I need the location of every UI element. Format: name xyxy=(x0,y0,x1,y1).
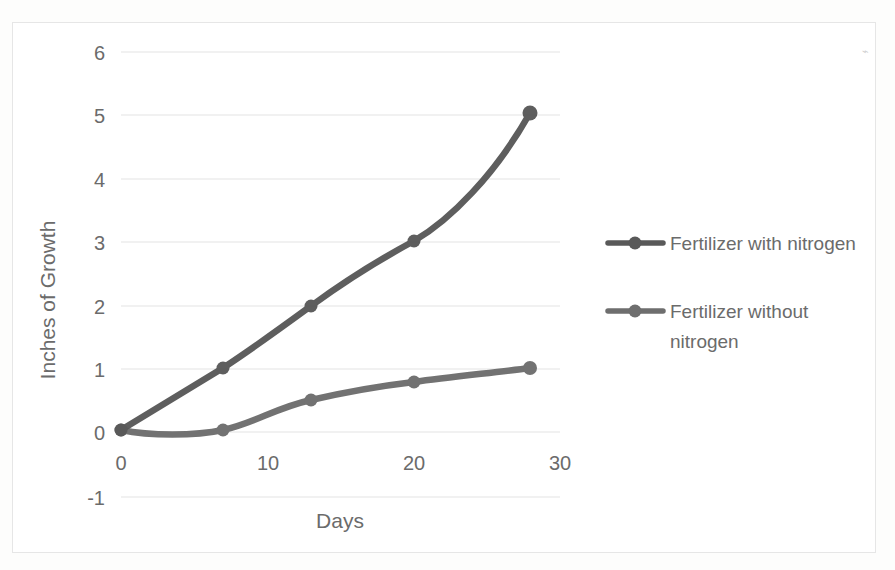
legend-label-with-nitrogen: Fertilizer with nitrogen xyxy=(670,233,856,254)
line-chart: 6 5 4 3 2 1 0 -1 0 10 20 30 Days Inches … xyxy=(0,0,895,570)
x-tick-20: 20 xyxy=(403,452,425,474)
legend-label-without-nitrogen-line1: Fertilizer without xyxy=(670,301,809,322)
legend-item-with-nitrogen[interactable]: Fertilizer with nitrogen xyxy=(608,233,856,254)
data-point-with-nitrogen-2 xyxy=(305,300,318,313)
scan-artifact: ⌁ xyxy=(862,45,869,57)
legend-swatch-marker-without-nitrogen xyxy=(629,305,642,318)
x-tick-10: 10 xyxy=(257,452,279,474)
x-tick-0: 0 xyxy=(115,452,126,474)
x-axis-title: Days xyxy=(316,509,364,532)
y-tick-neg1: -1 xyxy=(87,487,105,509)
data-point-with-nitrogen-1 xyxy=(217,362,230,375)
data-point-without-nitrogen-1 xyxy=(217,424,230,437)
y-tick-2: 2 xyxy=(94,296,105,318)
y-tick-5: 5 xyxy=(94,105,105,127)
data-point-without-nitrogen-3 xyxy=(408,376,421,389)
data-point-with-nitrogen-3 xyxy=(408,235,421,248)
series-line-with-nitrogen xyxy=(121,113,530,430)
y-tick-1: 1 xyxy=(94,359,105,381)
legend: Fertilizer with nitrogen Fertilizer with… xyxy=(608,233,856,352)
series-fertilizer-with-nitrogen xyxy=(115,106,538,437)
legend-label-without-nitrogen-line2: nitrogen xyxy=(670,331,739,352)
data-point-without-nitrogen-2 xyxy=(305,394,318,407)
y-axis-tick-labels: 6 5 4 3 2 1 0 -1 xyxy=(87,42,105,509)
y-tick-4: 4 xyxy=(94,169,105,191)
data-point-with-nitrogen-4 xyxy=(523,106,538,121)
x-axis-tick-labels: 0 10 20 30 xyxy=(115,452,571,474)
data-point-with-nitrogen-0 xyxy=(115,424,128,437)
series-line-without-nitrogen xyxy=(121,368,530,435)
y-axis-title: Inches of Growth xyxy=(36,221,59,380)
y-tick-0: 0 xyxy=(94,422,105,444)
y-tick-6: 6 xyxy=(94,42,105,64)
legend-item-without-nitrogen[interactable]: Fertilizer without nitrogen xyxy=(608,301,809,352)
x-tick-30: 30 xyxy=(549,452,571,474)
data-point-without-nitrogen-4 xyxy=(523,361,537,375)
legend-swatch-marker-with-nitrogen xyxy=(629,237,642,250)
gridlines xyxy=(121,52,560,497)
y-tick-3: 3 xyxy=(94,232,105,254)
